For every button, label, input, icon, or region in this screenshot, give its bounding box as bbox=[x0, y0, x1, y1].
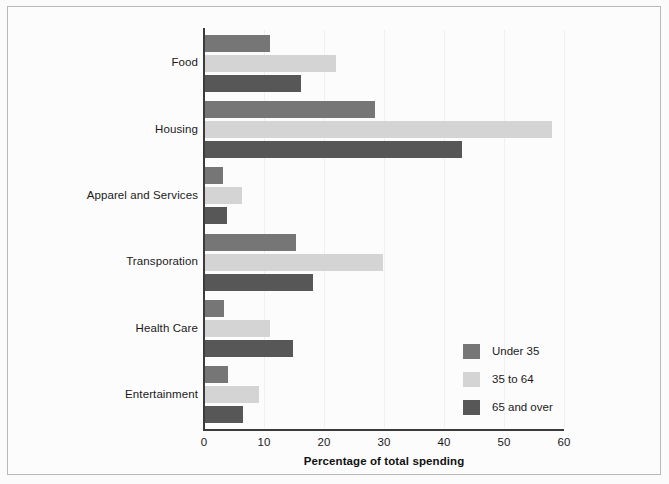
category-label: Entertainment bbox=[8, 388, 198, 400]
x-tick-label: 10 bbox=[258, 436, 271, 448]
bar[interactable] bbox=[204, 121, 552, 138]
category-axis-labels: FoodHousingApparel and ServicesTranspora… bbox=[5, 30, 198, 428]
bar[interactable] bbox=[204, 75, 301, 92]
category-label: Housing bbox=[8, 123, 198, 135]
category-label: Health Care bbox=[8, 322, 198, 334]
bar[interactable] bbox=[204, 340, 293, 357]
legend-label: 35 to 64 bbox=[492, 373, 534, 385]
bar[interactable] bbox=[204, 207, 227, 224]
bar-group bbox=[204, 234, 564, 291]
bar-group bbox=[204, 167, 564, 224]
legend-label: 65 and over bbox=[492, 401, 553, 413]
bar[interactable] bbox=[204, 141, 462, 158]
bar[interactable] bbox=[204, 167, 223, 184]
bar[interactable] bbox=[204, 187, 242, 204]
bar[interactable] bbox=[204, 101, 375, 118]
legend-swatch bbox=[463, 344, 480, 359]
bar[interactable] bbox=[204, 274, 313, 291]
x-tick-label: 0 bbox=[201, 436, 207, 448]
legend-label: Under 35 bbox=[492, 345, 539, 357]
chart-legend: Under 3535 to 6465 and over bbox=[463, 337, 583, 421]
category-label: Transporation bbox=[8, 255, 198, 267]
x-tick-label: 30 bbox=[378, 436, 391, 448]
y-axis-spine bbox=[203, 28, 205, 430]
bar[interactable] bbox=[204, 234, 296, 251]
x-axis-tick-labels: 0102030405060 bbox=[204, 436, 564, 452]
x-tick-label: 20 bbox=[318, 436, 331, 448]
bar[interactable] bbox=[204, 366, 228, 383]
x-tick-label: 60 bbox=[558, 436, 571, 448]
legend-item[interactable]: 35 to 64 bbox=[463, 365, 583, 393]
x-tick-label: 40 bbox=[438, 436, 451, 448]
bar[interactable] bbox=[204, 386, 259, 403]
bar[interactable] bbox=[204, 320, 270, 337]
category-label: Apparel and Services bbox=[8, 189, 198, 201]
legend-item[interactable]: 65 and over bbox=[463, 393, 583, 421]
chart-figure: FoodHousingApparel and ServicesTranspora… bbox=[0, 0, 669, 484]
legend-swatch bbox=[463, 400, 480, 415]
x-tick-label: 50 bbox=[498, 436, 511, 448]
legend-item[interactable]: Under 35 bbox=[463, 337, 583, 365]
bar[interactable] bbox=[204, 300, 224, 317]
bar[interactable] bbox=[204, 254, 383, 271]
category-label: Food bbox=[8, 56, 198, 68]
bar[interactable] bbox=[204, 35, 270, 52]
legend-swatch bbox=[463, 372, 480, 387]
bar[interactable] bbox=[204, 406, 243, 423]
bar-group bbox=[204, 35, 564, 92]
bar[interactable] bbox=[204, 55, 336, 72]
x-axis-spine bbox=[203, 429, 564, 431]
bar-group bbox=[204, 101, 564, 158]
x-axis-title: Percentage of total spending bbox=[204, 455, 564, 467]
